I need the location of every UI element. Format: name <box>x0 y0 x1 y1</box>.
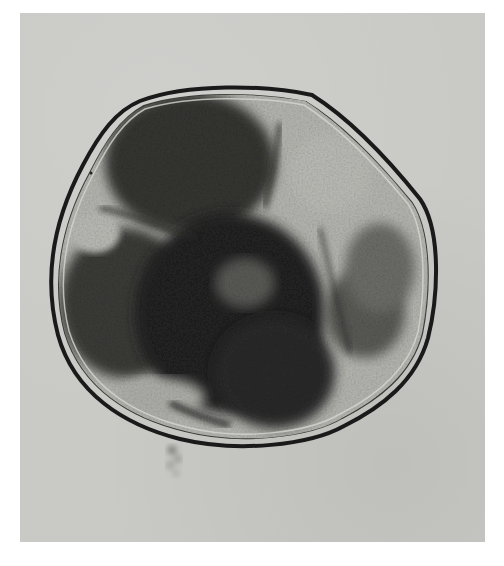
debris <box>167 446 181 476</box>
speck <box>90 172 93 175</box>
embryo-illustration <box>20 13 485 542</box>
micrograph <box>20 13 485 542</box>
